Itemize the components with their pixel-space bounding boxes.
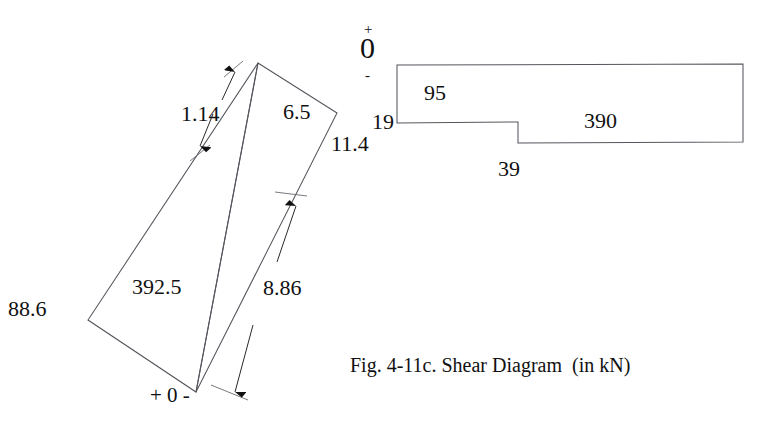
label-8-86: 8.86 [263,277,302,299]
label-392-5: 392.5 [132,276,182,298]
stepped-shear-block [397,64,743,143]
dimension-arrow-up [277,206,296,262]
label-39: 39 [498,158,520,180]
extension-line-top [275,192,307,196]
figure-caption: Fig. 4-11c. Shear Diagram (in kN) [350,355,630,375]
label-1-14: 1.14 [181,103,220,125]
dimension-arrow-up [222,72,235,100]
datum-zero-label: 0 [360,33,375,63]
extension-line-lower [190,145,210,161]
baseline-zero-label: + 0 - [150,385,190,406]
shear-diagram-figure: + 0 - 1.14 6.5 11.4 88.6 392.5 8.86 + 0 … [0,0,775,440]
label-95: 95 [424,82,446,104]
dimension-arrow-down [235,325,253,392]
datum-minus-sign: - [365,68,370,83]
label-6-5: 6.5 [283,101,311,123]
label-88-6: 88.6 [8,298,47,320]
step-outline [397,64,743,143]
label-19: 19 [372,111,394,133]
label-390: 390 [584,110,617,132]
label-11-4: 11.4 [331,133,369,155]
lower-triangle [88,63,258,392]
extension-line-bottom [211,385,248,400]
